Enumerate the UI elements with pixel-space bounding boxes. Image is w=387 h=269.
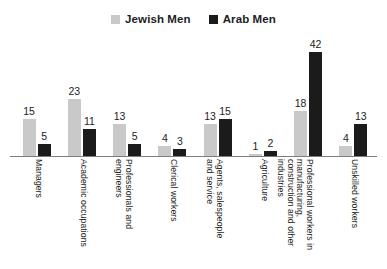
bar-group-agriculture: 12	[240, 30, 285, 156]
category-label-agriculture: Agriculture	[256, 159, 269, 255]
bar-group-agents-salespeople-and-service: 1315	[195, 30, 240, 156]
bar-wrap-jewish: 23	[68, 30, 81, 156]
bar-jewish-men-professionals-and-engineers	[113, 124, 126, 156]
bar-wrap-jewish: 13	[204, 30, 217, 156]
legend-label: Jewish Men	[125, 13, 191, 25]
bar-wrap-arab: 5	[128, 30, 141, 156]
bar-value-label: 4	[162, 133, 168, 144]
plot-area: 1552311135431315121842413	[14, 30, 376, 156]
bar-arab-men-managers	[38, 144, 51, 156]
bar-value-label: 42	[310, 39, 322, 50]
category-label-professional-workers-in-manufactur: Professional workers in manufacturing, c…	[301, 159, 314, 255]
bar-value-label: 13	[114, 111, 126, 122]
legend-swatch-arab-men	[209, 15, 218, 24]
bar-chart: Jewish MenArab Men 155231113543131512184…	[0, 0, 387, 269]
bar-value-label: 2	[267, 138, 273, 149]
category-axis-labels: ManagersAcademic occupationsProfessional…	[14, 159, 376, 259]
category-label-managers: Managers	[30, 159, 43, 255]
bar-wrap-jewish: 18	[294, 30, 307, 156]
bar-wrap-arab: 3	[173, 30, 186, 156]
bar-wrap-jewish: 13	[113, 30, 126, 156]
bar-value-label: 1	[252, 141, 258, 152]
bar-wrap-jewish: 4	[339, 30, 352, 156]
bar-jewish-men-clerical-workers	[158, 146, 171, 156]
bar-value-label: 5	[132, 131, 138, 142]
bar-arab-men-clerical-workers	[173, 149, 186, 156]
bar-wrap-arab: 42	[309, 30, 322, 156]
legend-item-jewish-men: Jewish Men	[111, 13, 191, 25]
category-label-academic-occupations: Academic occupations	[75, 159, 88, 255]
bar-group-professionals-and-engineers: 135	[105, 30, 150, 156]
legend-item-arab-men: Arab Men	[209, 13, 276, 25]
bar-value-label: 3	[177, 136, 183, 147]
bar-wrap-jewish: 1	[249, 30, 262, 156]
bar-wrap-arab: 11	[83, 30, 96, 156]
x-axis-baseline	[10, 156, 377, 157]
bar-group-clerical-workers: 43	[150, 30, 195, 156]
category-label-clerical-workers: Clerical workers	[165, 159, 178, 255]
bar-group-unskilled-workers: 413	[331, 30, 376, 156]
bar-group-academic-occupations: 2311	[59, 30, 104, 156]
bar-arab-men-professional-workers-in-manufactur	[309, 52, 322, 156]
bar-value-label: 18	[295, 98, 307, 109]
bar-group-professional-workers-in-manufactur: 1842	[286, 30, 331, 156]
bar-wrap-arab: 2	[264, 30, 277, 156]
bar-wrap-jewish: 4	[158, 30, 171, 156]
legend-label: Arab Men	[223, 13, 276, 25]
bar-arab-men-unskilled-workers	[354, 124, 367, 156]
bar-value-label: 4	[343, 133, 349, 144]
bar-value-label: 15	[23, 106, 35, 117]
bar-arab-men-professionals-and-engineers	[128, 144, 141, 156]
bar-value-label: 13	[204, 111, 216, 122]
category-label-professionals-and-engineers: Professionals and engineers	[120, 159, 133, 255]
bar-wrap-arab: 15	[219, 30, 232, 156]
bar-value-label: 23	[69, 86, 81, 97]
bar-jewish-men-managers	[23, 119, 36, 156]
bar-jewish-men-professional-workers-in-manufactur	[294, 111, 307, 156]
bar-arab-men-academic-occupations	[83, 129, 96, 156]
category-label-unskilled-workers: Unskilled workers	[346, 159, 359, 255]
bar-arab-men-agents-salespeople-and-service	[219, 119, 232, 156]
bar-group-managers: 155	[14, 30, 59, 156]
bar-value-label: 15	[219, 106, 231, 117]
bar-value-label: 5	[41, 131, 47, 142]
legend-swatch-jewish-men	[111, 15, 120, 24]
bar-value-label: 13	[355, 111, 367, 122]
bar-jewish-men-academic-occupations	[68, 99, 81, 156]
bar-value-label: 11	[84, 116, 95, 127]
category-label-agents-salespeople-and-service: Agents, salespeople and service	[211, 159, 224, 255]
chart-legend: Jewish MenArab Men	[0, 13, 387, 25]
bar-wrap-arab: 5	[38, 30, 51, 156]
bar-jewish-men-agents-salespeople-and-service	[204, 124, 217, 156]
bar-wrap-arab: 13	[354, 30, 367, 156]
bar-wrap-jewish: 15	[23, 30, 36, 156]
bar-jewish-men-unskilled-workers	[339, 146, 352, 156]
